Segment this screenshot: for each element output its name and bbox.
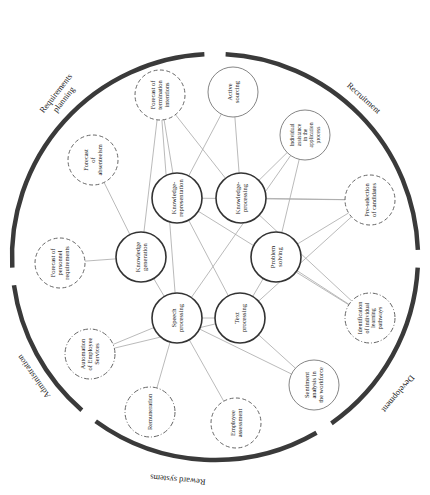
node-label: Knowledge-representation bbox=[170, 179, 184, 217]
node-iilp: Identificationof individuallearningpathw… bbox=[345, 293, 395, 343]
node-label: Employeeassessment bbox=[229, 409, 243, 438]
hr-ai-circular-diagram: RequirementsplanningRecruitmentDevelopme… bbox=[0, 0, 430, 495]
edge-psc-ps bbox=[297, 213, 348, 244]
node-rem: Remuneration bbox=[125, 387, 175, 437]
edge-iilp-ps bbox=[297, 271, 349, 305]
edge-ea-sp bbox=[189, 340, 224, 401]
node-fti: Forecast ofterminationintentions bbox=[135, 70, 185, 120]
node-label: Pre-selectionof candidates bbox=[363, 183, 377, 217]
edge-as-kp bbox=[235, 117, 239, 173]
node-aes: Automationof EmployeeServices bbox=[65, 329, 115, 379]
node-fa: Forecastofabsenteeism bbox=[68, 135, 118, 185]
node-label: Forecast ofterminationintentions bbox=[149, 79, 170, 109]
node-ea: Employeeassessment bbox=[211, 398, 261, 448]
node-fpr: Forecast ofpersonnelrequirements bbox=[35, 238, 85, 288]
ring-label-development: Development bbox=[379, 373, 417, 415]
node-label: Problemsolving bbox=[269, 245, 283, 268]
node-sp: Speechprocessing bbox=[152, 293, 202, 343]
edge-tp-ps bbox=[253, 279, 264, 297]
edge-rem-sp bbox=[157, 342, 170, 388]
edge-iaap-ps bbox=[282, 159, 299, 232]
edge-fti-kg bbox=[144, 120, 157, 232]
node-saw: Sentimentanalysis inthe workforce bbox=[289, 360, 339, 410]
node-iaap: Individualassistancein theapplicationpro… bbox=[280, 110, 330, 160]
node-label: Sentimentanalysis inthe workforce bbox=[303, 367, 324, 403]
ring-segment-development bbox=[331, 268, 417, 424]
node-psc: Pre-selectionof candidates bbox=[345, 175, 395, 225]
node-ps: Problemsolving bbox=[251, 232, 301, 282]
ring-label-administration: Administration bbox=[14, 352, 52, 401]
node-as: Activesourcing bbox=[208, 67, 258, 117]
node-kg: Knowledgegeneration bbox=[116, 232, 166, 282]
edge-fa-kg bbox=[104, 182, 130, 234]
edge-fpr-kg bbox=[85, 259, 116, 261]
node-kp: Knowledge-processing bbox=[216, 173, 266, 223]
node-label: Knowledge-processing bbox=[234, 182, 248, 215]
application-nodes: Forecast ofterminationintentionsActiveso… bbox=[35, 67, 395, 448]
edge-fti-kp bbox=[175, 115, 225, 179]
ring-label-reward: Reward systems bbox=[150, 473, 206, 488]
node-label: Knowledgegeneration bbox=[134, 242, 148, 272]
edge-kg-sp bbox=[154, 279, 165, 297]
node-label: Activesourcing bbox=[226, 80, 240, 103]
node-label: Remuneration bbox=[146, 393, 153, 430]
ring-label-recruitment: Recruitment bbox=[345, 80, 383, 116]
edge-kr-tp bbox=[189, 220, 229, 296]
edge-aes-sp bbox=[113, 328, 154, 345]
node-tp: Textprocessing bbox=[215, 293, 265, 343]
ring-segment-reward bbox=[96, 421, 317, 460]
ring-label-requirements: Requirementsplanning bbox=[37, 71, 82, 121]
node-label: Forecast ofpersonnelrequirements bbox=[49, 246, 70, 280]
node-kr: Knowledge-representation bbox=[152, 173, 202, 223]
edge-saw-tp bbox=[259, 335, 296, 368]
